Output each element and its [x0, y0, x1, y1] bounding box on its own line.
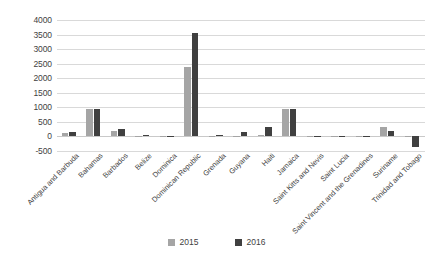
bar-group: [278, 20, 303, 151]
bar-2015: [282, 109, 289, 137]
legend-label: 2016: [247, 238, 266, 247]
bar-2016: [363, 136, 370, 137]
y-axis: 40003500300025002000150010005000-500: [0, 0, 57, 151]
bar-2015: [209, 136, 216, 137]
y-axis-tick-label: 2000: [33, 74, 52, 82]
bar-group: [131, 20, 156, 151]
bar-2015: [405, 136, 412, 137]
y-axis-tick-label: 2500: [33, 60, 52, 68]
x-axis-tick-label: Belize: [134, 152, 154, 172]
x-axis-tick-label: Barbados: [101, 152, 129, 180]
bar-2016: [143, 135, 150, 136]
bar-groups: [57, 20, 425, 151]
y-axis-tick-label: 1000: [33, 103, 52, 111]
x-axis-tick-label: Guyana: [228, 152, 252, 176]
bar-2015: [331, 136, 338, 137]
bar-group: [82, 20, 107, 151]
y-axis-tick-label: 0: [47, 132, 52, 140]
bar-2015: [258, 135, 265, 137]
bar-group: [155, 20, 180, 151]
x-axis-tick-label: Bahamas: [77, 152, 105, 180]
y-axis-tick-label: 500: [38, 118, 52, 126]
x-axis-tick-label: Grenada: [202, 152, 228, 178]
bar-group: [351, 20, 376, 151]
y-axis-tick-label: 1500: [33, 89, 52, 97]
legend-swatch-icon: [168, 239, 175, 246]
bar-2016: [118, 129, 125, 137]
bar-2016: [192, 33, 199, 136]
x-axis-tick-label: Antigua and Barbuda: [26, 152, 81, 207]
legend-item[interactable]: 2016: [235, 238, 266, 247]
bar-2016: [290, 109, 297, 137]
bar-2016: [412, 136, 419, 146]
bar-group: [376, 20, 401, 151]
bar-2016: [241, 132, 248, 136]
bar-2016: [216, 135, 223, 137]
bar-chart: 40003500300025002000150010005000-500 Ant…: [0, 0, 433, 269]
bar-2016: [167, 136, 174, 137]
y-axis-tick-label: 3000: [33, 45, 52, 53]
plot-area: [57, 20, 425, 151]
bar-2016: [265, 127, 272, 136]
bar-2015: [160, 136, 167, 137]
chart-legend: 20152016: [0, 238, 433, 247]
legend-label: 2015: [180, 238, 199, 247]
legend-swatch-icon: [235, 239, 242, 246]
bar-2016: [69, 132, 76, 136]
x-axis-tick-label: Haiti: [260, 152, 276, 168]
bar-group: [106, 20, 131, 151]
x-axis-tick-label: Saint Kitts and Nevis: [272, 152, 326, 206]
bar-2015: [135, 136, 142, 137]
bar-group: [229, 20, 254, 151]
y-axis-tick-label: 4000: [33, 16, 52, 24]
bar-group: [400, 20, 425, 151]
bar-group: [302, 20, 327, 151]
bar-2015: [62, 133, 69, 137]
bar-2015: [184, 67, 191, 137]
x-axis: Antigua and BarbudaBahamasBarbadosBelize…: [57, 152, 425, 227]
x-axis-tick-label: Dominican Republic: [151, 152, 203, 204]
bar-2015: [233, 136, 240, 137]
bar-group: [253, 20, 278, 151]
bar-2016: [94, 109, 101, 136]
bar-2015: [380, 127, 387, 137]
bar-2015: [111, 131, 118, 137]
y-axis-tick-label: -500: [35, 147, 52, 155]
bar-2015: [86, 109, 93, 136]
bar-2015: [307, 136, 314, 137]
bar-group: [180, 20, 205, 151]
y-axis-tick-label: 3500: [33, 31, 52, 39]
bar-2016: [388, 131, 395, 136]
legend-item[interactable]: 2015: [168, 238, 199, 247]
bar-2016: [339, 136, 346, 137]
bar-2015: [356, 136, 363, 137]
bar-group: [204, 20, 229, 151]
bar-group: [57, 20, 82, 151]
bar-2016: [314, 136, 321, 137]
bar-group: [327, 20, 352, 151]
